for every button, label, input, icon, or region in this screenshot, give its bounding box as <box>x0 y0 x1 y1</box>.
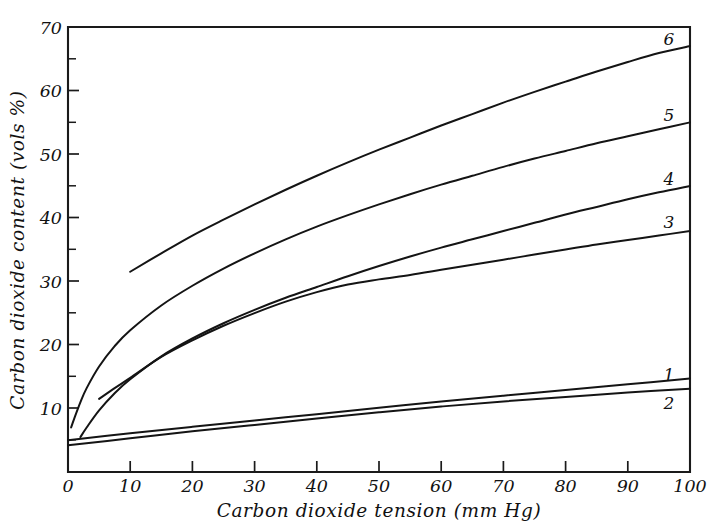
curve-1 <box>68 379 690 441</box>
x-label-0: 0 <box>62 476 73 496</box>
curve-label-3: 3 <box>664 212 675 232</box>
x-label-80: 80 <box>554 476 576 496</box>
y-axis-minor-ticks <box>68 59 76 440</box>
x-axis-tick-labels: 0 10 20 30 40 50 60 70 80 90 100 <box>62 476 706 496</box>
curve-4 <box>80 186 690 437</box>
y-label-30: 30 <box>40 272 62 292</box>
y-label-50: 50 <box>40 145 62 165</box>
y-label-20: 20 <box>39 335 62 355</box>
y-label-60: 60 <box>40 81 62 101</box>
curve-5 <box>71 122 690 427</box>
curve-label-6: 6 <box>664 29 675 49</box>
y-axis-tick-labels: 70 60 50 40 30 20 10 <box>39 18 62 419</box>
curve-label-2: 2 <box>663 393 675 413</box>
x-label-50: 50 <box>368 476 390 496</box>
curve-label-1: 1 <box>664 365 675 385</box>
data-curves <box>68 46 690 445</box>
curve-labels: 6 5 4 3 1 2 <box>663 29 675 413</box>
x-label-40: 40 <box>305 476 328 496</box>
x-label-10: 10 <box>119 476 141 496</box>
curve-label-4: 4 <box>663 169 675 189</box>
chart-figure: 70 60 50 40 30 20 10 0 10 20 30 40 50 60… <box>0 0 719 527</box>
x-label-20: 20 <box>180 476 203 496</box>
plot-border <box>68 27 690 472</box>
x-label-90: 90 <box>617 476 639 496</box>
curve-6 <box>130 46 690 272</box>
curve-2 <box>68 389 690 446</box>
chart-svg: 70 60 50 40 30 20 10 0 10 20 30 40 50 60… <box>0 0 719 527</box>
curve-3 <box>99 231 690 399</box>
y-axis-major-ticks <box>68 27 79 408</box>
y-label-40: 40 <box>39 208 62 228</box>
x-axis-title: Carbon dioxide tension (mm Hg) <box>217 500 542 521</box>
y-label-10: 10 <box>40 399 62 419</box>
y-axis-title: Carbon dioxide content (vols %) <box>7 90 28 409</box>
y-label-70: 70 <box>40 18 62 38</box>
x-label-100: 100 <box>673 476 706 496</box>
x-label-30: 30 <box>243 476 265 496</box>
axis-frame <box>68 27 690 472</box>
curve-label-5: 5 <box>664 105 675 125</box>
x-label-70: 70 <box>492 476 514 496</box>
x-axis-ticks <box>68 461 690 472</box>
x-label-60: 60 <box>430 476 452 496</box>
